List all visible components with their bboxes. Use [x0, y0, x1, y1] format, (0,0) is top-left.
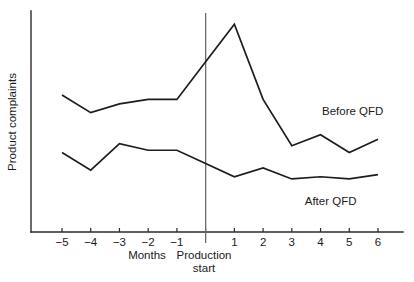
line-chart-canvas: −5−4−3−2−1123456 Before QFD After QFD Mo… [0, 0, 414, 282]
x-tick-label-5: 5 [346, 236, 352, 248]
x-tick-label-6: 6 [375, 236, 381, 248]
x-tick-label--2: −2 [142, 236, 155, 248]
x-tick-label-3: 3 [289, 236, 295, 248]
y-axis-title: Product complaints [6, 73, 18, 171]
x-tick-label-2: 2 [260, 236, 266, 248]
x-axis-title: Months [128, 249, 166, 261]
production-start-label-line2: start [193, 262, 216, 274]
x-tick-label--4: −4 [84, 236, 98, 248]
series-label-after-qfd: After QFD [305, 195, 357, 207]
x-tick-label-4: 4 [317, 236, 324, 248]
x-tick-label-1: 1 [231, 236, 237, 248]
production-start-label-line1: Production [177, 249, 232, 261]
x-tick-label--5: −5 [55, 236, 68, 248]
series-label-before-qfd: Before QFD [322, 105, 383, 117]
x-tick-label--3: −3 [113, 236, 126, 248]
x-tick-label--1: −1 [170, 236, 183, 248]
chart-figure: −5−4−3−2−1123456 Before QFD After QFD Mo… [0, 0, 414, 282]
